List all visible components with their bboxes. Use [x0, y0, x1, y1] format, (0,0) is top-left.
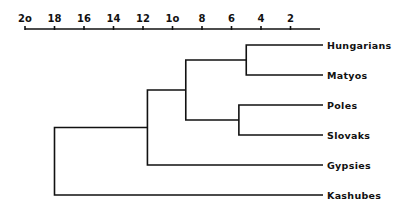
axis-tick-label: 14: [107, 13, 121, 24]
axis-tick-label: 16: [77, 13, 91, 24]
dendrogram-branch: [147, 90, 323, 165]
distance-axis: 2o181614121o8642: [18, 13, 320, 30]
leaf-label-gypsies: Gypsies: [327, 160, 371, 171]
axis-tick-label: 2: [287, 13, 294, 24]
leaf-label-hungarians: Hungarians: [327, 40, 392, 51]
dendrogram-branch: [186, 60, 246, 120]
dendrogram-tree: [55, 45, 324, 195]
axis-tick-label: 6: [228, 13, 235, 24]
leaf-label-slovaks: Slovaks: [327, 130, 370, 141]
dendrogram-branch: [239, 105, 323, 135]
leaf-label-poles: Poles: [327, 100, 357, 111]
leaf-label-matyos: Matyos: [327, 70, 368, 81]
axis-tick-label: 8: [199, 13, 206, 24]
axis-tick-label: 12: [136, 13, 150, 24]
axis-tick-label: 18: [48, 13, 62, 24]
dendrogram-chart: 2o181614121o8642 HungariansMatyosPolesSl…: [0, 0, 400, 210]
axis-tick-label: 1o: [166, 13, 180, 24]
dendrogram-branch: [246, 45, 323, 75]
leaf-label-kashubes: Kashubes: [327, 190, 381, 201]
axis-tick-label: 2o: [18, 13, 32, 24]
dendrogram-branch: [55, 128, 324, 196]
axis-tick-label: 4: [258, 13, 265, 24]
leaf-labels: HungariansMatyosPolesSlovaksGypsiesKashu…: [327, 40, 392, 201]
